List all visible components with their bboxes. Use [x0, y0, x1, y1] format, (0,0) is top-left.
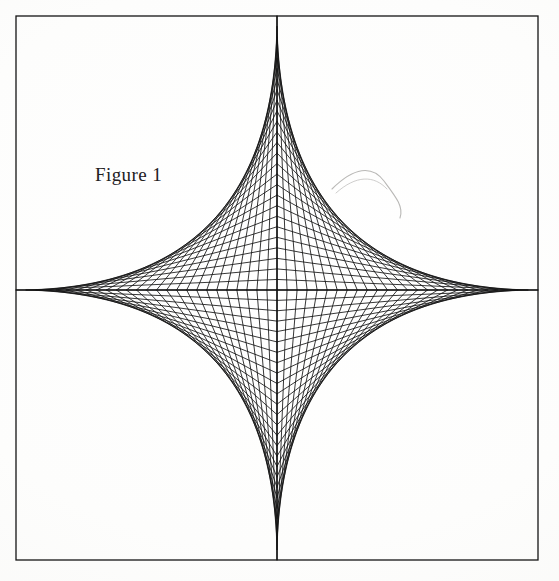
axes-group: [16, 16, 538, 560]
figure-page: Figure 1: [0, 0, 559, 581]
figure-caption: Figure 1: [95, 165, 162, 184]
astroid-string-art-figure: [0, 0, 559, 581]
scan-hair-fiber-icon: [332, 171, 401, 218]
